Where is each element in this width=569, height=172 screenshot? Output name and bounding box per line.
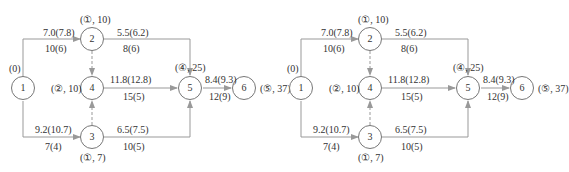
edge-2-5-top: 5.5(6.2) xyxy=(117,27,149,38)
node-2: 2 xyxy=(80,27,104,51)
edge-2-5-bottom: 8(6) xyxy=(401,43,418,54)
node-6-tag: (⑤, 37) xyxy=(538,83,569,94)
edge-1-3-bottom: 7(4) xyxy=(323,141,340,152)
node-1-tag: (0) xyxy=(287,63,299,74)
node-3: 3 xyxy=(358,125,382,149)
node-2-tag: (①, 10) xyxy=(80,14,111,25)
node-2-tag: (①, 10) xyxy=(358,14,389,25)
edge-3-5-top: 6.5(7.5) xyxy=(395,124,427,135)
edge-5-6-bottom: 12(9) xyxy=(209,91,231,102)
node-1-tag: (0) xyxy=(9,63,21,74)
edge-5-6-top: 8.4(9.3) xyxy=(483,74,515,85)
network-diagram-left: 1 2 3 4 5 6 (0) (①, 10) (①, 7) (②, 10) (… xyxy=(0,0,275,172)
node-4-tag: (②, 10) xyxy=(51,83,82,94)
node-5: 5 xyxy=(178,76,202,100)
edge-1-2-bottom: 10(6) xyxy=(45,43,67,54)
node-1: 1 xyxy=(289,76,313,100)
edge-1-2-top: 7.0(7.8) xyxy=(43,27,75,38)
edge-1-2-bottom: 10(6) xyxy=(323,43,345,54)
node-3-tag: (①, 7) xyxy=(80,152,106,163)
node-4: 4 xyxy=(80,76,104,100)
edge-4-5-top: 11.8(12.8) xyxy=(388,74,429,85)
edge-4-5-bottom: 15(5) xyxy=(401,91,423,102)
node-3-tag: (①, 7) xyxy=(358,152,384,163)
node-1: 1 xyxy=(11,76,35,100)
node-5: 5 xyxy=(456,76,480,100)
edge-3-5-bottom: 10(5) xyxy=(123,141,145,152)
edge-1-3-top: 9.2(10.7) xyxy=(35,124,72,135)
edge-5-6-top: 8.4(9.3) xyxy=(205,74,237,85)
node-4-tag: (②, 10) xyxy=(329,83,360,94)
edge-1-3-bottom: 7(4) xyxy=(45,141,62,152)
network-diagram-right: 1 2 3 4 5 6 (0) (①, 10) (①, 7) (②, 10) (… xyxy=(278,0,553,172)
edge-5-6-bottom: 12(9) xyxy=(487,91,509,102)
edge-2-5-top: 5.5(6.2) xyxy=(395,27,427,38)
edge-2-5-bottom: 8(6) xyxy=(123,43,140,54)
node-2: 2 xyxy=(358,27,382,51)
node-3: 3 xyxy=(80,125,104,149)
node-4: 4 xyxy=(358,76,382,100)
edge-3-5-bottom: 10(5) xyxy=(401,141,423,152)
node-5-tag: (④, 25) xyxy=(453,62,484,73)
edge-1-3-top: 9.2(10.7) xyxy=(313,124,350,135)
node-5-tag: (④, 25) xyxy=(175,62,206,73)
edge-4-5-top: 11.8(12.8) xyxy=(110,74,151,85)
edge-4-5-bottom: 15(5) xyxy=(123,91,145,102)
edge-3-5-top: 6.5(7.5) xyxy=(117,124,149,135)
edge-1-2-top: 7.0(7.8) xyxy=(321,27,353,38)
